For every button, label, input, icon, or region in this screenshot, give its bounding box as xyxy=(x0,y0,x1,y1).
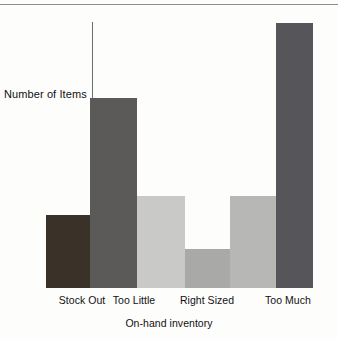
x-tick-label-too-much: Too Much xyxy=(243,293,333,307)
bar-too-much-low xyxy=(230,196,276,288)
x-axis-tick-labels: Stock Out Too Little Right Sized Too Muc… xyxy=(0,293,338,309)
plot-area: Number of Items xyxy=(0,0,338,339)
bar-stock-out xyxy=(46,215,90,288)
bar-right-sized-high xyxy=(137,196,185,288)
bar-right-sized-low xyxy=(185,249,230,288)
bar-too-little xyxy=(90,98,137,288)
bars-layer xyxy=(0,0,338,339)
bar-too-much-high xyxy=(276,23,313,288)
x-tick-label-right-sized: Right Sized xyxy=(162,293,252,307)
bar-chart-figure: Number of Items Stock Out Too Little Rig… xyxy=(0,0,338,339)
x-axis-title: On-hand inventory xyxy=(0,316,338,330)
